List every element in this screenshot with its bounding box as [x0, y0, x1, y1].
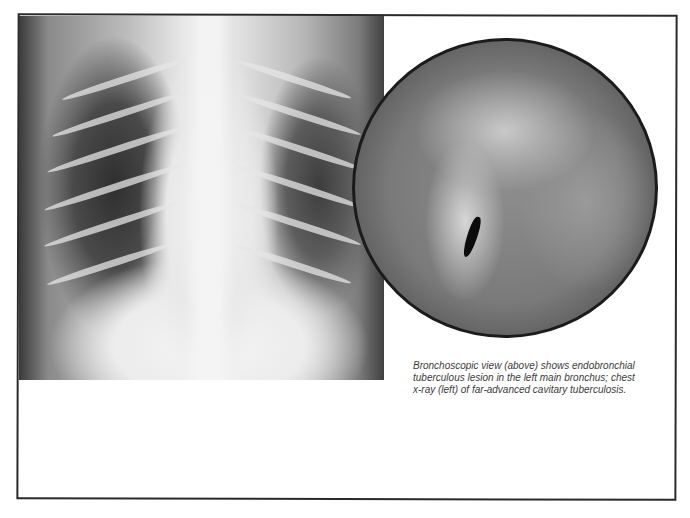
xray-rib: [236, 58, 352, 102]
bronchoscopic-view-image: [352, 38, 658, 338]
xray-rib: [236, 201, 362, 248]
xray-rib: [46, 241, 172, 288]
chest-xray-image: [19, 16, 384, 380]
xray-spine-shadow: [184, 16, 234, 380]
xray-rib: [236, 163, 367, 211]
bronchus-lumen: [461, 215, 483, 258]
figure-caption: Bronchoscopic view (above) shows endobro…: [413, 360, 643, 396]
xray-rib: [43, 200, 178, 250]
xray-rib: [236, 243, 352, 287]
